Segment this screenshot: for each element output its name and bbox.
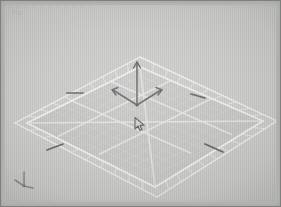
tripod-origin [23,185,26,188]
gizmo-svg [106,57,168,115]
tripod-x-axis [15,180,24,186]
world-axis-indicator [13,168,39,192]
window-frame: Top [0,0,281,207]
viewport-3d[interactable]: Top [5,5,276,202]
y-axis-arrow [137,90,161,105]
transform-move-gizmo[interactable] [106,57,168,115]
viewport-label[interactable]: Top [11,8,23,17]
screenshot-root: Top [0,0,281,207]
gizmo-origin [135,103,138,106]
cursor-arrow-icon [133,116,147,132]
mouse-cursor [133,116,147,132]
axis-tripod-icon [13,168,39,192]
x-axis-arrow [113,90,137,105]
